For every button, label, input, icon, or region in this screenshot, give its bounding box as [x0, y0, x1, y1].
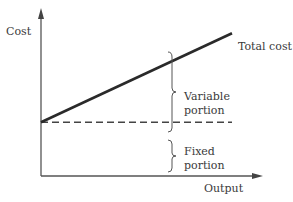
fixed-portion-label-line2: portion: [184, 159, 225, 172]
y-axis-arrow-icon: [38, 8, 44, 19]
variable-portion-label-line2: portion: [184, 104, 225, 117]
variable-portion-brace: [168, 52, 176, 132]
y-axis-label: Cost: [6, 25, 32, 38]
x-axis-label: Output: [204, 182, 244, 195]
fixed-portion-label-line1: Fixed: [184, 145, 215, 158]
fixed-portion-brace: [168, 140, 176, 172]
cost-diagram: Cost Output Total cost Variable portion …: [0, 0, 293, 202]
total-cost-label: Total cost: [238, 40, 293, 53]
x-axis-arrow-icon: [252, 173, 263, 179]
variable-portion-label-line1: Variable: [183, 90, 230, 103]
